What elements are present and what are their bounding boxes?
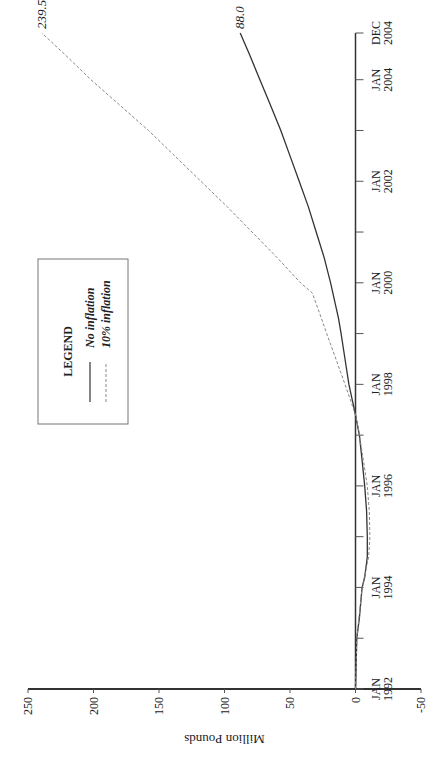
time-tick-label: JAN1992: [369, 677, 395, 701]
time-tick-label: JAN2002: [369, 169, 395, 193]
time-tick-label: JAN1998: [369, 372, 395, 396]
value-tick-label: 0: [349, 697, 363, 703]
legend-label-no-inflation: No inflation: [83, 287, 97, 349]
legend-title: LEGEND: [61, 326, 75, 377]
series-line-no-inflation: [240, 33, 367, 689]
end-label-no-inflation: 88.0: [232, 6, 247, 29]
end-labels: 88.0239.5: [34, 0, 247, 29]
time-tick-label: JAN2000: [369, 271, 395, 295]
value-tick-label: -50: [414, 697, 428, 713]
time-tick-label: JAN1996: [369, 474, 395, 498]
value-axis-ticks: -50050100150200250: [21, 689, 428, 715]
value-axis-title: Million Pounds: [184, 732, 265, 747]
end-label-10pct-inflation: 239.5: [34, 0, 49, 29]
legend: LEGEND No inflation 10% inflation: [38, 259, 128, 424]
legend-label-10pct-inflation: 10% inflation: [99, 280, 113, 348]
value-tick-label: 250: [21, 697, 35, 715]
chart-container: -50050100150200250 JAN1992JAN1994JAN1996…: [0, 0, 446, 764]
value-tick-label: 200: [87, 697, 101, 715]
value-tick-label: 50: [283, 697, 297, 709]
value-tick-label: 100: [218, 697, 232, 715]
value-tick-label: 150: [152, 697, 166, 715]
series-lines: [42, 33, 370, 689]
chart-svg: -50050100150200250 JAN1992JAN1994JAN1996…: [0, 0, 446, 764]
time-tick-label: JAN1994: [369, 575, 395, 599]
time-tick-label: DEC2004: [369, 21, 395, 45]
series-line-10pct-inflation: [42, 33, 370, 689]
time-tick-label: JAN2004: [369, 68, 395, 92]
